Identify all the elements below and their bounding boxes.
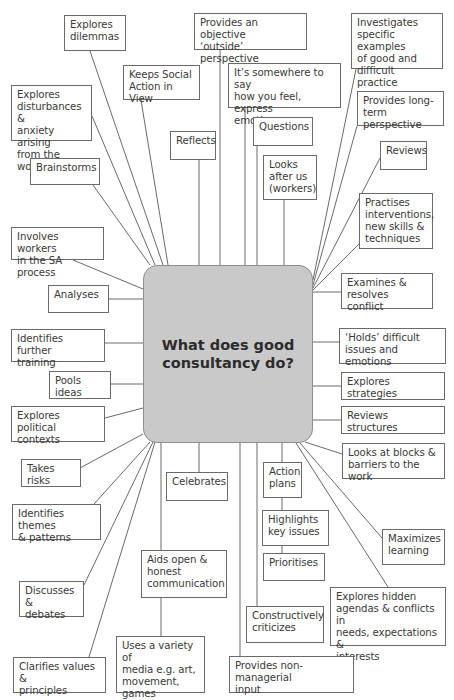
node-objective-outside-perspective: Provides an objective ‘outside’ perspect… — [194, 13, 307, 50]
node-reviews: Reviews — [380, 141, 427, 170]
node-clarifies-values: Clarifies values & principles — [13, 657, 106, 693]
node-reflects: Reflects — [170, 131, 216, 160]
connector-identifies-themes — [94, 442, 150, 504]
node-explores-political: Explores political contexts — [11, 406, 105, 442]
node-keeps-social-action: Keeps Social Action in View — [123, 65, 200, 100]
node-explores-hidden-agendas: Explores hidden agendas & conflicts in n… — [330, 587, 446, 646]
node-investigates-examples: Investigates specific examples of good a… — [351, 13, 443, 69]
node-maximizes-learning: Maximizes learning — [382, 529, 445, 565]
node-reviews-structures: Reviews structures — [341, 406, 445, 434]
node-highlights-key-issues: Highlights key issues — [262, 510, 329, 546]
connector-looks-at-blocks — [305, 442, 342, 454]
node-looks-after-us: Looks after us (workers) — [263, 155, 317, 200]
node-discusses-debates: Discusses & debates — [19, 581, 84, 617]
node-somewhere-to-say: It’s somewhere to say how you feel, expr… — [228, 63, 341, 108]
node-questions: Questions — [253, 117, 313, 146]
node-explores-strategies: Explores strategies — [341, 372, 445, 400]
node-analyses: Analyses — [48, 285, 109, 313]
central-question-title: What does good consultancy do? — [162, 336, 295, 372]
node-identifies-training: Identifies further training — [11, 329, 105, 362]
node-identifies-themes: Identifies themes & patterns — [12, 504, 101, 540]
node-brainstorms: Brainstorms — [30, 158, 100, 185]
node-involves-workers: Involves workers in the SA process — [11, 227, 104, 260]
node-takes-risks: Takes risks — [21, 459, 81, 487]
node-non-managerial-input: Provides non-managerial input — [229, 656, 354, 693]
node-celebrates: Celebrates — [166, 472, 228, 501]
node-practises-interventions: Practises interventions, new skills & te… — [359, 193, 433, 249]
connector-provides-long-term — [313, 126, 357, 285]
node-explores-dilemmas: Explores dilemmas — [64, 15, 126, 51]
connector-explores-political — [105, 408, 143, 418]
central-question-box: What does good consultancy do? — [143, 265, 313, 443]
node-uses-variety-media: Uses a variety of media e.g. art, moveme… — [116, 636, 205, 693]
node-explores-disturbances: Explores disturbances & anxiety arising … — [11, 85, 92, 141]
node-holds-difficult: ‘Holds’ difficult issues and emotions — [339, 328, 446, 364]
node-prioritises: Prioritises — [263, 553, 325, 581]
node-provides-long-term: Provides long- term perspective — [357, 91, 444, 126]
node-examines-conflict: Examines & resolves conflict — [341, 273, 433, 309]
node-looks-at-blocks: Looks at blocks & barriers to the work — [342, 443, 445, 479]
node-action-plans: Action plans — [263, 462, 302, 498]
node-constructively-criticizes: Constructively criticizes — [246, 606, 324, 643]
node-pools-ideas: Pools ideas — [49, 371, 111, 399]
node-aids-open-communication: Aids open & honest communication — [141, 550, 227, 598]
